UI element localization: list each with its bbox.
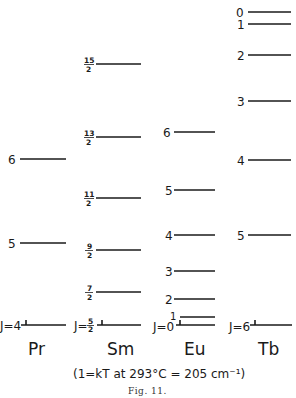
level-label: 3 — [165, 265, 173, 279]
element-label-pr: Pr — [28, 339, 45, 359]
level-label: 3 — [237, 95, 245, 109]
column-tb: 0 1 2 3 4 5 J=6 Tb — [228, 6, 292, 359]
ground-label: J=0 — [152, 320, 174, 334]
frac-den: 2 — [88, 325, 93, 334]
frac-den: 2 — [87, 251, 92, 260]
frac-num: 11 — [84, 190, 94, 199]
ground-label: J=4 — [0, 319, 21, 333]
level-label: 2 — [165, 293, 173, 307]
level-label: 5 — [237, 229, 245, 243]
frac-den: 2 — [86, 199, 91, 208]
element-label-eu: Eu — [184, 339, 206, 359]
level-label: 5 — [8, 237, 16, 251]
element-label-tb: Tb — [257, 339, 279, 359]
frac-num: 9 — [87, 242, 92, 251]
column-eu: 6 5 4 3 2 1 J=0 Eu — [152, 126, 215, 359]
frac-num: 13 — [84, 129, 94, 138]
frac-den: 2 — [86, 65, 91, 74]
unit-note: (1=kT at 293°C = 205 cm⁻¹) — [73, 367, 245, 381]
frac-den: 2 — [86, 138, 91, 147]
figure-caption: Fig. 11. — [128, 386, 167, 396]
level-label: 6 — [163, 126, 171, 140]
frac-den: 2 — [87, 293, 92, 302]
level-label: 6 — [8, 153, 16, 167]
level-label: 1 — [237, 18, 245, 32]
energy-level-diagram: 6 5 J=4 Pr 15 2 13 2 11 2 9 2 7 2 — [0, 0, 296, 398]
level-label: 5 — [165, 184, 173, 198]
level-label: 4 — [237, 154, 245, 168]
level-label: 4 — [165, 229, 173, 243]
ground-label: J=6 — [228, 320, 250, 334]
ground-label-prefix: J= — [73, 319, 88, 333]
level-label: 2 — [237, 49, 245, 63]
frac-num: 7 — [87, 284, 92, 293]
element-label-sm: Sm — [107, 339, 134, 359]
frac-num: 15 — [84, 56, 94, 65]
column-sm: 15 2 13 2 11 2 9 2 7 2 J= 5 2 Sm — [73, 56, 141, 359]
column-pr: 6 5 J=4 Pr — [0, 153, 66, 359]
